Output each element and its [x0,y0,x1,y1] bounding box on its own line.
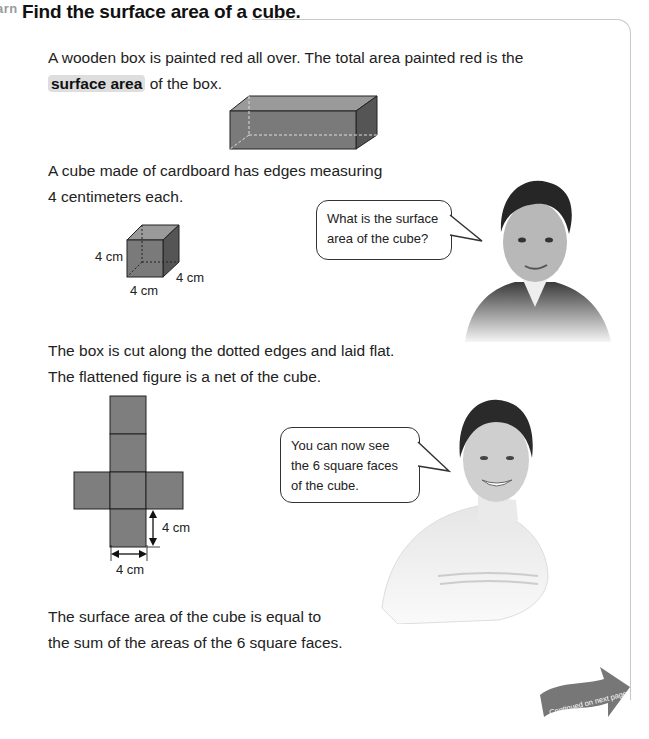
section-tag: arn [0,1,18,16]
wooden-box-figure [228,94,380,152]
continued-arrow[interactable]: Continued on next page [538,665,634,723]
net-text-line2: The flattened figure is a net of the cub… [48,368,321,385]
net-label-horizontal: 4 cm [116,562,144,577]
paragraph-intro: A wooden box is painted red all over. Th… [48,45,608,97]
net-face-2 [110,434,146,472]
paragraph-net: The box is cut along the dotted edges an… [48,338,548,390]
boy-speech-bubble: What is the surface area of the cube? [316,200,452,260]
conclusion-text-line2: the sum of the areas of the 6 square fac… [48,634,343,651]
net-face-6 [110,509,146,547]
net-face-1 [110,396,146,434]
girl-photo [378,388,558,624]
cube-text-line2: 4 centimeters each. [48,188,183,205]
net-face-4 [110,472,146,509]
net-label-vertical: 4 cm [162,520,190,535]
cube-label-height: 4 cm [95,249,123,264]
cube-label-depth: 4 cm [176,270,204,285]
cube-net-figure [70,393,230,571]
paragraph-conclusion: The surface area of the cube is equal to… [48,604,428,656]
intro-text-end: of the box. [145,75,222,92]
boy-speech-text: What is the surface area of the cube? [327,211,438,246]
keyword-surface-area: surface area [48,75,145,92]
net-text-line1: The box is cut along the dotted edges an… [48,342,394,359]
net-face-5 [146,472,183,509]
cube-text-line1: A cube made of cardboard has edges measu… [48,162,382,179]
boy-photo [455,172,615,342]
conclusion-text-line1: The surface area of the cube is equal to [48,608,321,625]
net-face-3 [74,472,110,509]
cube-label-width: 4 cm [130,283,158,298]
intro-text: A wooden box is painted red all over. Th… [48,49,523,66]
